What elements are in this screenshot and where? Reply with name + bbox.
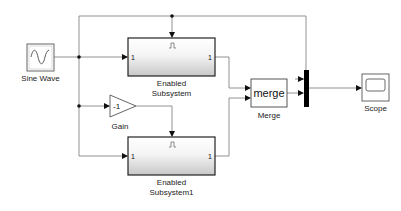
scope-icon [366,79,385,91]
wire-gain-to-enable2[interactable] [136,106,172,136]
enabled-subsystem-label-line2: Subsystem [152,89,192,98]
merge-block[interactable]: merge Merge [251,79,287,120]
input-port-label: 1 [131,54,135,61]
scope-label: Scope [364,104,387,113]
merge-label: Merge [258,111,281,120]
gain-value: -1 [113,102,121,111]
input-port-label: 1 [131,153,135,160]
enabled-subsystem1-block[interactable]: 1 1 Enabled Subsystem1 [128,137,215,197]
sine-wave-label: Sine Wave [21,74,60,83]
enabled-subsystem1-label-line2: Subsystem1 [149,188,194,197]
model-canvas: Sine Wave 1 1 Enabled Subsystem -1 Gain … [0,0,401,211]
mux-block[interactable] [304,70,309,107]
branch-point [77,104,81,108]
branch-point [77,55,81,59]
merge-block-text: merge [253,87,284,99]
gain-block[interactable]: -1 Gain [110,95,136,131]
wire-subsystem1-to-merge[interactable] [215,98,250,156]
gain-label: Gain [112,122,129,131]
scope-block[interactable]: Scope [362,74,389,113]
wire-subsystem-to-merge[interactable] [215,57,250,88]
branch-point [170,14,174,18]
signal-lines [54,14,361,156]
enabled-subsystem-block[interactable]: 1 1 Enabled Subsystem [128,38,215,98]
output-port-label: 1 [208,153,212,160]
enabled-subsystem1-label-line1: Enabled [157,178,186,187]
enabled-subsystem-label-line1: Enabled [157,79,186,88]
sine-wave-block[interactable]: Sine Wave [21,44,60,83]
output-port-label: 1 [208,54,212,61]
